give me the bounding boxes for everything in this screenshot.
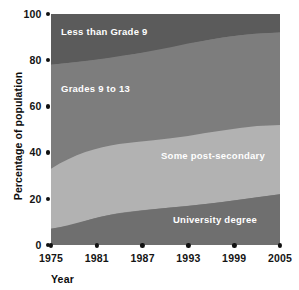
x-tick-2005: 2005 bbox=[268, 245, 292, 263]
y-tick-dot-icon bbox=[46, 12, 51, 17]
x-tick-1999: 1999 bbox=[222, 245, 246, 263]
plot-area: Less than Grade 9 Grades 9 to 13 Some po… bbox=[51, 14, 280, 245]
y-tick-label-40: 40 bbox=[29, 147, 41, 158]
x-tick-dot-icon bbox=[49, 243, 54, 248]
y-tick-dot-icon bbox=[46, 150, 51, 155]
x-tick-dot-icon bbox=[186, 243, 191, 248]
y-tick-label-100: 100 bbox=[23, 9, 41, 20]
y-tick-dot-icon bbox=[46, 58, 51, 63]
x-tick-dot-icon bbox=[278, 243, 283, 248]
x-tick-label-2005: 2005 bbox=[268, 253, 292, 264]
y-tick-dot-icon bbox=[46, 197, 51, 202]
x-tick-1975: 1975 bbox=[39, 245, 63, 263]
x-axis: 1975 1981 1987 1993 1999 2005 Year bbox=[0, 245, 299, 290]
y-tick-80: 80 bbox=[29, 54, 50, 66]
x-axis-title: Year bbox=[51, 273, 74, 285]
x-tick-1993: 1993 bbox=[176, 245, 200, 263]
stacked-area-svg bbox=[51, 14, 280, 245]
y-tick-40: 40 bbox=[29, 147, 50, 159]
y-tick-dot-icon bbox=[46, 104, 51, 109]
x-tick-dot-icon bbox=[95, 243, 100, 248]
x-tick-label-1981: 1981 bbox=[85, 253, 109, 264]
y-tick-60: 60 bbox=[29, 100, 50, 112]
x-tick-label-1999: 1999 bbox=[222, 253, 246, 264]
area-chart: 0 20 40 60 80 100 Percentage of populati… bbox=[0, 0, 299, 290]
x-tick-label-1993: 1993 bbox=[176, 253, 200, 264]
x-tick-dot-icon bbox=[140, 243, 145, 248]
y-tick-label-60: 60 bbox=[29, 101, 41, 112]
x-tick-dot-icon bbox=[232, 243, 237, 248]
y-tick-label-20: 20 bbox=[29, 194, 41, 205]
y-tick-100: 100 bbox=[23, 8, 50, 20]
x-tick-1981: 1981 bbox=[85, 245, 109, 263]
x-tick-1987: 1987 bbox=[131, 245, 155, 263]
x-tick-label-1975: 1975 bbox=[39, 253, 63, 264]
y-tick-label-80: 80 bbox=[29, 55, 41, 66]
y-axis-title: Percentage of population bbox=[12, 46, 24, 226]
x-tick-label-1987: 1987 bbox=[131, 253, 155, 264]
y-tick-20: 20 bbox=[29, 193, 50, 205]
